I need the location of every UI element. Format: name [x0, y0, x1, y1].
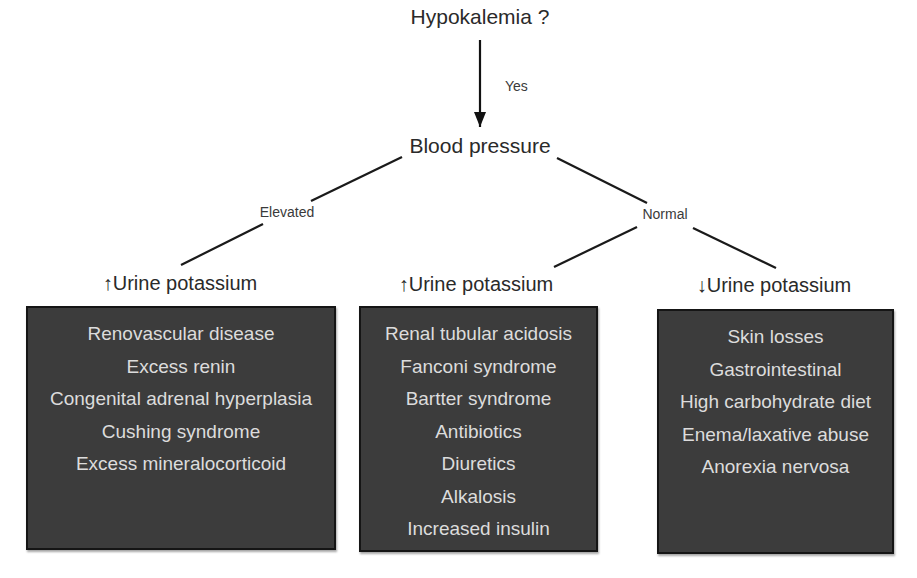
edge-normal-left — [554, 227, 637, 267]
cause-item: Bartter syndrome — [361, 383, 596, 416]
arrowhead-icon — [474, 112, 486, 127]
edge-bp-elevated-lower — [181, 224, 263, 265]
cause-item: Antibiotics — [361, 416, 596, 449]
category-heading-normal-high: ↑Urine potassium — [399, 273, 554, 296]
category-heading-elevated: ↑Urine potassium — [103, 272, 258, 295]
cause-item: Cushing syndrome — [28, 416, 334, 449]
cause-item: Alkalosis — [361, 481, 596, 514]
causes-box-normal-low: Skin losses Gastrointestinal High carboh… — [657, 309, 894, 554]
category-label: Urine potassium — [113, 272, 258, 294]
cause-item: Enema/laxative abuse — [659, 419, 892, 452]
category-heading-normal-low: ↓Urine potassium — [697, 274, 852, 297]
cause-item: Excess renin — [28, 351, 334, 384]
down-arrow-icon: ↓ — [697, 274, 707, 296]
cause-item: Congenital adrenal hyperplasia — [28, 383, 334, 416]
cause-item: Gastrointestinal — [659, 354, 892, 387]
edge-bp-normal-upper — [557, 158, 647, 203]
cause-item: Increased insulin — [361, 513, 596, 546]
hypokalemia-node: Hypokalemia ? — [411, 5, 550, 29]
causes-box-normal-high: Renal tubular acidosis Fanconi syndrome … — [359, 306, 598, 552]
cause-item: Skin losses — [659, 321, 892, 354]
cause-item: Renovascular disease — [28, 318, 334, 351]
edge-normal-right — [693, 228, 776, 268]
category-label: Urine potassium — [707, 274, 852, 296]
cause-item: High carbohydrate diet — [659, 386, 892, 419]
cause-item: Renal tubular acidosis — [361, 318, 596, 351]
up-arrow-icon: ↑ — [103, 272, 113, 294]
category-label: Urine potassium — [409, 273, 554, 295]
cause-item: Anorexia nervosa — [659, 451, 892, 484]
cause-item: Excess mineralocorticoid — [28, 448, 334, 481]
edge-bp-elevated-upper — [311, 157, 402, 201]
cause-item: Fanconi syndrome — [361, 351, 596, 384]
causes-box-elevated: Renovascular disease Excess renin Congen… — [26, 306, 336, 550]
yes-label: Yes — [505, 78, 528, 94]
cause-item: Diuretics — [361, 448, 596, 481]
up-arrow-icon: ↑ — [399, 273, 409, 295]
normal-label: Normal — [642, 206, 687, 222]
elevated-label: Elevated — [260, 204, 314, 220]
blood-pressure-node: Blood pressure — [409, 134, 550, 158]
